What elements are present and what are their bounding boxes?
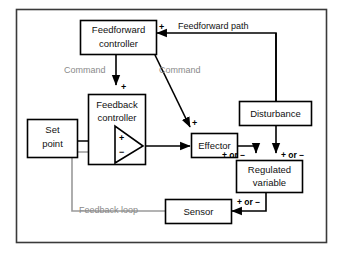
sign-command-into-effector: + [192,118,197,128]
sign-command-into-feedback: + [121,82,126,92]
block-label-effector: Effector [198,140,231,151]
path-label-command-to-effector: Command [159,65,201,75]
block-label-feedback-controller-line2: controller [97,112,136,123]
path-label-feedback-loop: Feedback loop [79,205,138,215]
path-label-feedforward-path: Feedforward path [178,21,249,31]
sign-summing-minus: − [119,147,124,157]
block-regulated-variable[interactable]: Regulated variable [237,161,303,193]
block-label-feedforward-controller-line2: controller [99,38,138,49]
diagram-canvas: Feedforward controller Set point Feedbac… [0,0,342,257]
sign-effector-output: + or − [222,150,245,160]
block-feedback-controller[interactable]: Feedback controller + − [89,95,146,165]
block-feedforward-controller[interactable]: Feedforward controller [81,21,157,55]
control-system-block-diagram: Feedforward controller Set point Feedbac… [0,0,342,257]
sign-summing-plus: + [119,133,124,143]
block-label-disturbance: Disturbance [250,108,301,119]
block-label-regulated-variable-line2: variable [253,177,286,188]
sign-sensor-input: + or − [237,197,260,207]
block-set-point[interactable]: Set point [28,120,78,158]
path-label-command-to-feedback: Command [64,65,106,75]
block-label-sensor: Sensor [183,206,213,217]
block-label-feedback-controller-line1: Feedback [96,99,138,110]
block-sensor[interactable]: Sensor [166,200,232,224]
block-label-set-point-line1: Set [45,124,60,135]
sign-disturbance-output: + or − [281,150,304,160]
block-label-set-point-line2: point [42,138,63,149]
sign-feedforward-input: + [159,22,164,32]
block-label-regulated-variable-line1: Regulated [248,164,291,175]
block-disturbance[interactable]: Disturbance [240,102,312,126]
block-label-feedforward-controller-line1: Feedforward [92,24,145,35]
